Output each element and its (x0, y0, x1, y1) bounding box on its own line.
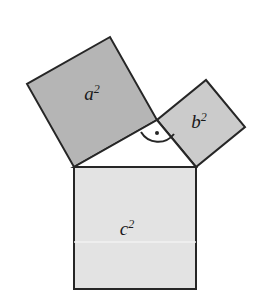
pythagorean-theorem-diagram: a2 b2 c2 (0, 0, 263, 304)
square-b-label-exponent: 2 (201, 110, 207, 124)
square-a-label-base: a (84, 83, 94, 104)
pythagorean-figure: a2 b2 c2 (0, 0, 263, 304)
right-angle-dot-icon (155, 131, 159, 135)
square-a-label-exponent: 2 (94, 82, 100, 96)
square-c-label-exponent: 2 (128, 217, 134, 231)
square-c-shape (74, 167, 196, 289)
square-b-label-base: b (191, 111, 201, 132)
